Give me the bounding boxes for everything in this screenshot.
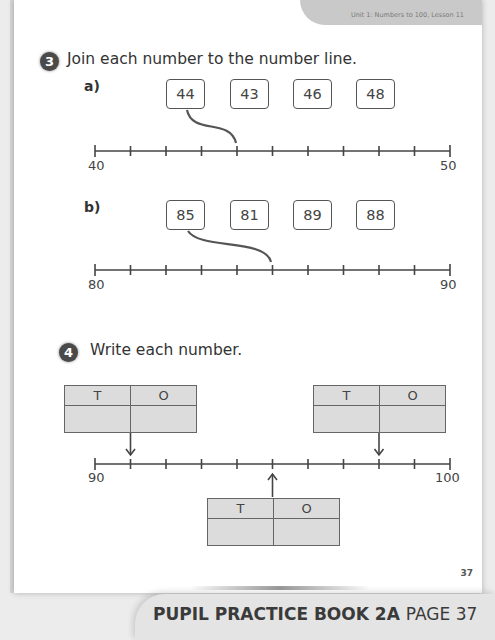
join-line-example-b: [188, 231, 271, 262]
number-line-q4: [95, 458, 450, 470]
page-number: 37: [460, 568, 473, 578]
join-line-example-a: [187, 110, 236, 143]
arrow-up-icon: [268, 474, 277, 497]
number-lines-graphic: [0, 0, 495, 640]
number-line-b: [95, 264, 450, 276]
arrow-down-icon: [375, 433, 384, 455]
number-line-a: [95, 145, 450, 157]
arrow-down-icon: [126, 433, 135, 455]
book-title: PUPIL PRACTICE BOOK 2A: [153, 604, 400, 624]
page-label: PAGE 37: [406, 604, 477, 624]
footer-banner: PUPIL PRACTICE BOOK 2APAGE 37: [135, 594, 495, 640]
banner-shadow: [190, 586, 370, 590]
